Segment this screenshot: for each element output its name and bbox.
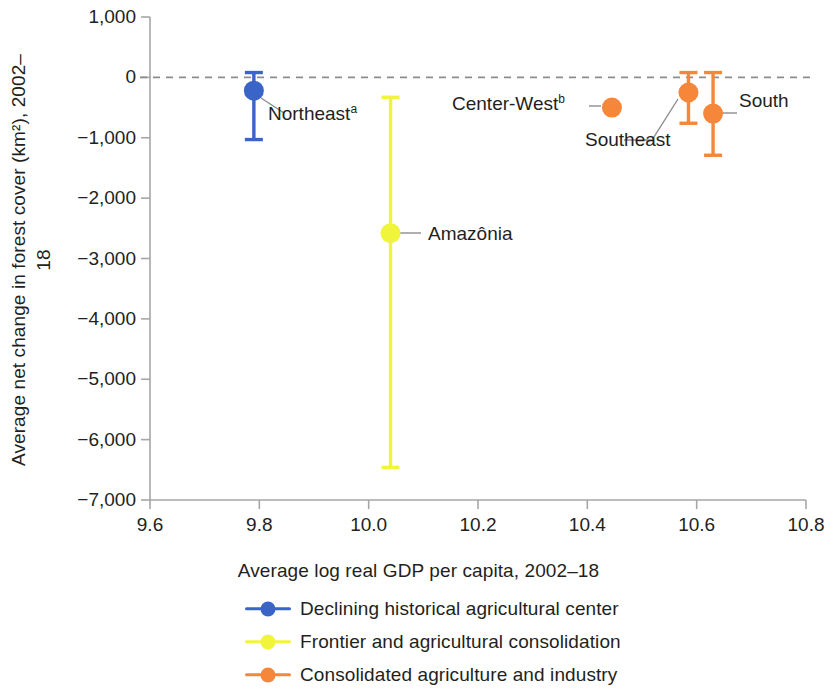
data-point-marker[interactable] — [602, 98, 622, 118]
point-label-south: South — [739, 90, 789, 112]
y-axis-tick-label: 0 — [0, 66, 136, 88]
y-axis-tick-label: −5,000 — [0, 368, 136, 390]
y-axis-tick-label: −6,000 — [0, 429, 136, 451]
data-point-marker[interactable] — [703, 104, 723, 124]
point-label-text: South — [739, 90, 789, 111]
point-label-northeast: Northeasta — [268, 103, 357, 125]
x-axis-tick-label: 9.6 — [137, 514, 163, 536]
y-axis-tick-label: −4,000 — [0, 308, 136, 330]
data-point-group — [678, 73, 698, 124]
legend-item-label: Consolidated agriculture and industry — [300, 664, 617, 686]
y-axis-tick-label: −3,000 — [0, 248, 136, 270]
data-point-group — [703, 73, 723, 156]
data-point-marker[interactable] — [244, 81, 264, 101]
legend-marker-icon — [245, 666, 291, 684]
point-label-text: Amazônia — [428, 223, 513, 244]
data-point-group — [244, 73, 264, 140]
scatter-chart: Average net change in forest cover (km²)… — [0, 0, 837, 692]
point-label-southeast: Southeast — [585, 129, 671, 151]
point-label-footnote: b — [558, 92, 565, 106]
x-axis-tick-label: 10.0 — [350, 514, 387, 536]
legend-item[interactable]: Frontier and agricultural consolidation — [0, 625, 837, 658]
legend-marker-dot — [261, 601, 276, 616]
x-axis-tick-label: 10.4 — [569, 514, 606, 536]
legend-marker-icon — [245, 600, 291, 618]
point-label-center-west: Center-Westb — [452, 93, 565, 115]
data-point-marker[interactable] — [381, 223, 401, 243]
legend-marker-icon — [245, 633, 291, 651]
data-point-marker[interactable] — [678, 82, 698, 102]
data-point-group — [381, 97, 401, 467]
y-axis-tick-label: −1,000 — [0, 127, 136, 149]
point-label-text: Northeast — [268, 103, 350, 124]
point-label-footnote: a — [350, 102, 357, 116]
point-label-text: Southeast — [585, 129, 671, 150]
y-axis-tick-label: −7,000 — [0, 489, 136, 511]
data-point-group — [602, 98, 622, 118]
x-axis-tick-label: 10.8 — [788, 514, 825, 536]
point-label-text: Center-West — [452, 93, 558, 114]
y-axis-tick-label: −2,000 — [0, 187, 136, 209]
plot-area — [0, 0, 837, 692]
legend-marker-dot — [261, 667, 276, 682]
legend-item[interactable]: Declining historical agricultural center — [0, 592, 837, 625]
x-axis-tick-label: 10.2 — [460, 514, 497, 536]
legend-item-label: Declining historical agricultural center — [300, 598, 619, 620]
chart-legend: Declining historical agricultural center… — [0, 592, 837, 691]
legend-item[interactable]: Consolidated agriculture and industry — [0, 658, 837, 691]
legend-marker-dot — [261, 634, 276, 649]
x-axis-tick-label: 10.6 — [678, 514, 715, 536]
x-axis-tick-label: 9.8 — [246, 514, 272, 536]
legend-item-label: Frontier and agricultural consolidation — [300, 631, 621, 653]
y-axis-tick-label: 1,000 — [0, 6, 136, 28]
point-label-amazonia: Amazônia — [428, 223, 513, 245]
